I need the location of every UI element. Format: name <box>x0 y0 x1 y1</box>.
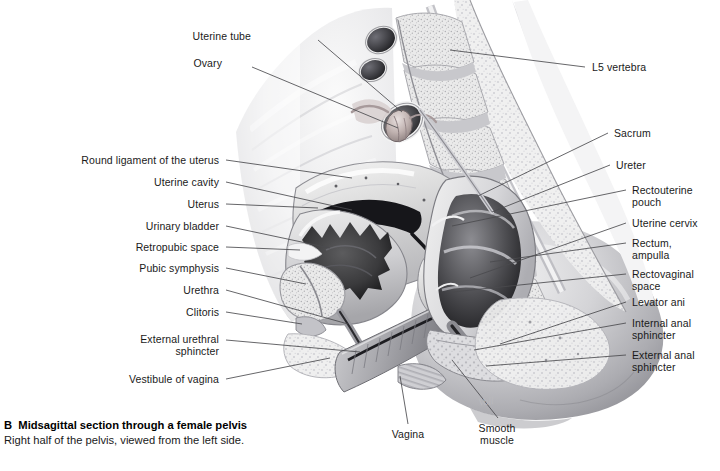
label-retropubic-space: Retropubic space <box>59 241 219 253</box>
label-rectouterine-pouch: Rectouterine pouch <box>632 184 718 208</box>
label-clitoris: Clitoris <box>59 306 219 318</box>
label-sacrum: Sacrum <box>614 127 714 139</box>
caption-letter: B <box>4 419 12 431</box>
label-urethra: Urethra <box>59 284 219 296</box>
label-uterus: Uterus <box>59 198 219 210</box>
label-ovary: Ovary <box>182 57 222 69</box>
label-external-anal-sphincter: External anal sphincter <box>632 349 718 373</box>
label-uterine-cervix: Uterine cervix <box>632 217 718 229</box>
label-uterine-cavity: Uterine cavity <box>59 176 219 188</box>
label-pubic-symphysis: Pubic symphysis <box>59 262 219 274</box>
label-external-urethral-sphincter: External urethral sphincter <box>59 333 219 357</box>
label-rectovaginal-space: Rectovaginal space <box>632 268 718 292</box>
label-levator-ani: Levator ani <box>632 296 718 308</box>
label-uterine-tube: Uterine tube <box>171 30 251 42</box>
label-rectum-ampulla: Rectum, ampulla <box>632 237 718 261</box>
label-vestibule-of-vagina: Vestibule of vagina <box>59 373 219 385</box>
label-ureter: Ureter <box>616 159 716 171</box>
label-l5-vertebra: L5 vertebra <box>592 61 712 73</box>
label-urinary-bladder: Urinary bladder <box>59 220 219 232</box>
artist-signature: Voll <box>477 394 493 408</box>
caption-title: B Midsagittal section through a female p… <box>4 418 424 433</box>
label-smooth-muscle: Smooth muscle <box>466 422 528 446</box>
figure-page: Uterine tube Ovary Round ligament of the… <box>0 0 720 471</box>
figure-caption: B Midsagittal section through a female p… <box>4 418 424 448</box>
label-internal-anal-sphincter: Internal anal sphincter <box>632 317 718 341</box>
caption-subtitle: Right half of the pelvis, viewed from th… <box>4 433 424 448</box>
caption-title-main: Midsagittal section through a female pel… <box>18 419 247 431</box>
label-round-ligament-of-the-uterus: Round ligament of the uterus <box>19 154 219 166</box>
